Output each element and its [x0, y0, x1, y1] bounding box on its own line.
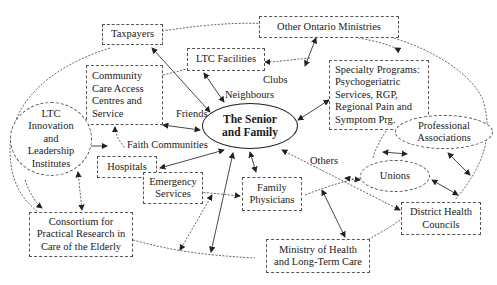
node-emergency-services: Emergency Services [143, 172, 203, 204]
node-consortium-practical-research: Consortium for Practical Research in Car… [29, 212, 133, 257]
node-community-care-access: Community Care Access Centres and Servic… [86, 65, 163, 125]
node-professional-associations: Professional Associations [395, 115, 493, 149]
label-friends: Friends [176, 108, 208, 120]
node-ministry-of-health: Ministry of Health and Long-Term Care [266, 239, 370, 273]
label-faith-communities: Faith Communities [127, 139, 208, 151]
node-district-health-councils: District Health Councils [401, 202, 481, 235]
node-other-ontario-ministries: Other Ontario Ministries [259, 16, 399, 38]
node-ltc-innovation-institutes: LTC Innovation and Leadership Institutes [10, 102, 92, 176]
node-senior-and-family: The Senior and Family [202, 103, 298, 149]
label-clubs: Clubs [263, 74, 288, 86]
label-neighbours: Neighbours [225, 89, 274, 101]
node-taxpayers: Taxpayers [102, 24, 163, 45]
node-family-physicians: Family Physicians [242, 177, 302, 211]
node-unions: Unions [360, 160, 430, 192]
stakeholder-diagram: Taxpayers Other Ontario Ministries LTC F… [0, 0, 497, 285]
label-others: Others [310, 155, 338, 167]
node-ltc-facilities: LTC Facilities [187, 48, 265, 71]
